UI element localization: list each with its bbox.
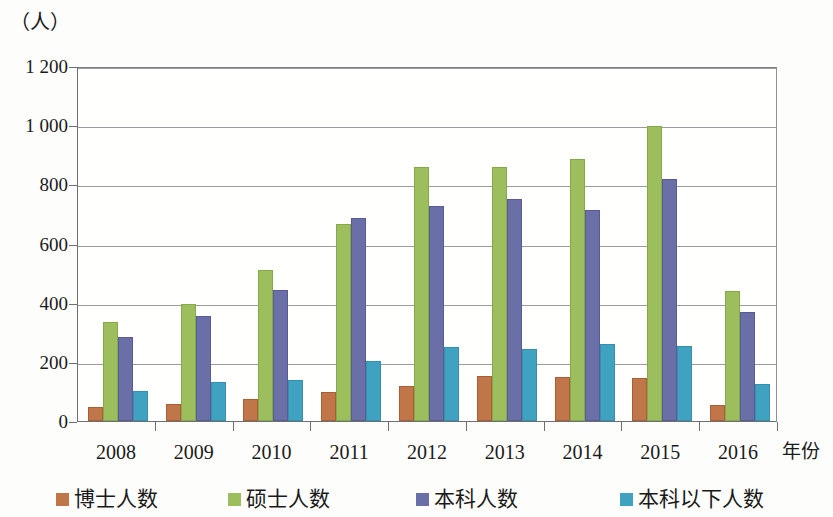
bar	[196, 316, 211, 421]
legend-swatch-icon	[416, 493, 429, 506]
bar	[258, 270, 273, 421]
legend-label: 硕士人数	[246, 486, 330, 512]
y-axis-tick-mark	[69, 422, 77, 423]
x-axis-tick-label: 2011	[309, 440, 389, 464]
y-axis-tick-label: 0	[2, 412, 68, 431]
bar-group	[389, 66, 467, 421]
x-axis-tick-mark	[699, 422, 700, 431]
bar	[118, 337, 133, 421]
legend-item: 本科人数	[416, 486, 518, 512]
bar	[632, 378, 647, 421]
x-axis-tick-label: 2008	[76, 440, 156, 464]
x-axis-tick-mark	[233, 422, 234, 431]
x-axis-tick-mark	[466, 422, 467, 431]
bar	[444, 347, 459, 421]
x-axis-tick-label: 2012	[387, 440, 467, 464]
x-axis-tick-mark	[388, 422, 389, 431]
legend-label: 本科以下人数	[638, 486, 764, 512]
legend-swatch-icon	[620, 493, 633, 506]
x-axis-tick-mark	[155, 422, 156, 431]
bar	[600, 344, 615, 421]
bar	[399, 386, 414, 421]
legend-item: 本科以下人数	[620, 486, 764, 512]
chart-legend: 博士人数硕士人数本科人数本科以下人数	[0, 486, 833, 517]
y-axis-tick-mark	[69, 185, 77, 186]
bar	[88, 407, 103, 421]
bar	[740, 312, 755, 421]
bar	[366, 361, 381, 421]
bar	[755, 384, 770, 421]
bar	[662, 179, 677, 421]
x-axis-tick-label: 2015	[620, 440, 700, 464]
bar-group	[156, 66, 234, 421]
y-axis-tick-label: 1 200	[2, 57, 68, 76]
x-axis-tick-label: 2013	[465, 440, 545, 464]
x-axis-title: 年份	[782, 440, 820, 464]
bar	[321, 392, 336, 421]
bar	[507, 199, 522, 421]
legend-label: 本科人数	[434, 486, 518, 512]
bar-group	[545, 66, 623, 421]
y-axis-tick-label: 600	[2, 235, 68, 254]
bar-group	[700, 66, 778, 421]
bar-group	[311, 66, 389, 421]
bar-group	[622, 66, 700, 421]
x-axis-tick-label: 2016	[698, 440, 778, 464]
x-axis-tick-label: 2009	[154, 440, 234, 464]
y-axis-tick-mark	[69, 304, 77, 305]
x-axis-tick-mark	[777, 422, 778, 431]
bar	[181, 304, 196, 421]
legend-swatch-icon	[228, 493, 241, 506]
bar	[211, 382, 226, 421]
y-axis-tick-label: 1 000	[2, 116, 68, 135]
y-axis-tick-mark	[69, 245, 77, 246]
y-axis-tick-mark	[69, 126, 77, 127]
legend-swatch-icon	[56, 493, 69, 506]
y-axis-tick-mark	[69, 363, 77, 364]
y-axis-unit-caption: （人）	[10, 6, 70, 35]
bar-group	[234, 66, 312, 421]
bar	[725, 291, 740, 421]
bar	[273, 290, 288, 421]
legend-item: 博士人数	[56, 486, 158, 512]
legend-item: 硕士人数	[228, 486, 330, 512]
bar	[677, 346, 692, 421]
x-axis-tick-mark	[621, 422, 622, 431]
plot-area	[77, 67, 777, 422]
bar	[429, 206, 444, 421]
bar	[103, 322, 118, 421]
y-axis-tick-label: 800	[2, 175, 68, 194]
bar-group	[78, 66, 156, 421]
bar	[414, 167, 429, 421]
x-axis-tick-mark	[544, 422, 545, 431]
bar	[555, 377, 570, 421]
bar	[133, 391, 148, 421]
bar	[647, 126, 662, 421]
bar	[336, 224, 351, 421]
x-axis-tick-mark	[310, 422, 311, 431]
bar	[522, 349, 537, 421]
bar	[351, 218, 366, 421]
bar	[288, 380, 303, 421]
bar	[570, 159, 585, 421]
bar	[243, 399, 258, 421]
bar-chart-figure: （人） 02004006008001 0001 200 200820092010…	[0, 0, 833, 517]
x-axis-tick-label: 2014	[543, 440, 623, 464]
bar	[166, 404, 181, 421]
bar-group	[467, 66, 545, 421]
legend-label: 博士人数	[74, 486, 158, 512]
y-axis-tick-label: 400	[2, 294, 68, 313]
bar	[710, 405, 725, 421]
y-axis-tick-label: 200	[2, 353, 68, 372]
bar	[477, 376, 492, 421]
bar	[492, 167, 507, 421]
bar	[585, 210, 600, 421]
y-axis-tick-mark	[69, 67, 77, 68]
x-axis-tick-label: 2010	[231, 440, 311, 464]
